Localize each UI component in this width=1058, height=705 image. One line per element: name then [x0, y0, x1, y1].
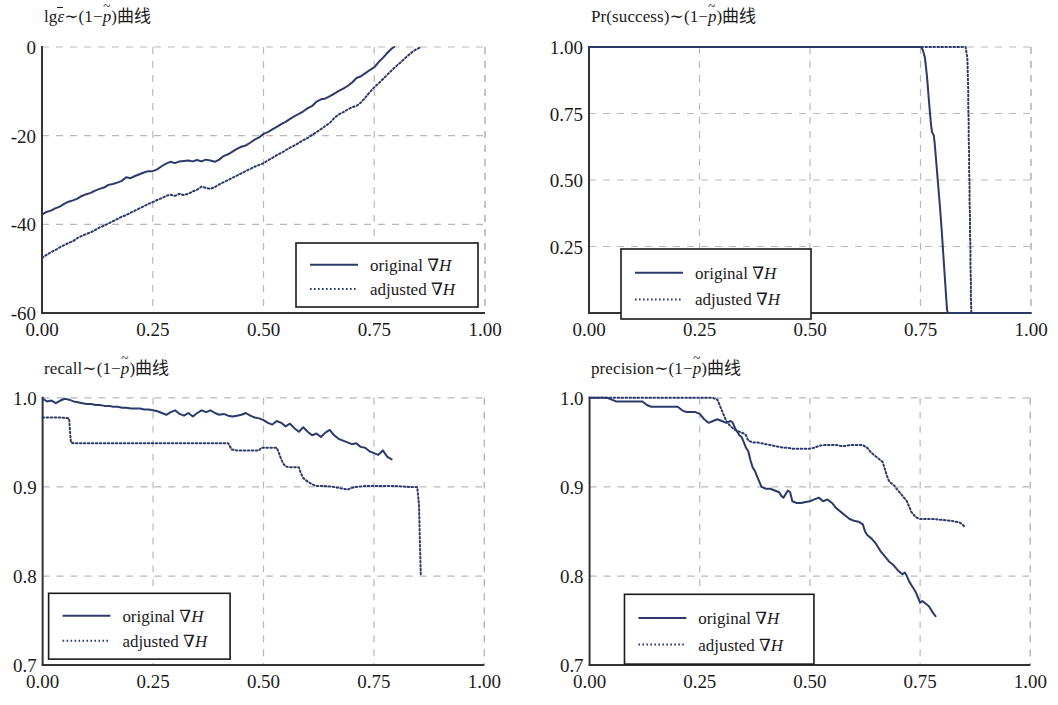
- plot-recall: 0.000.250.500.751.001.00.90.80.7original…: [0, 352, 529, 704]
- series-line-original: [43, 399, 392, 460]
- panel-recall: recall∼(1−p)曲线 0.000.250.500.751.001.00.…: [0, 352, 529, 704]
- y-tick-label: 0.7: [13, 655, 37, 676]
- plot-precision: 0.000.250.500.751.001.00.90.80.7original…: [529, 352, 1058, 704]
- legend-label-adjusted: adjusted ∇H: [370, 279, 457, 299]
- x-tick-label: 0.00: [572, 319, 605, 340]
- x-tick-label: 0.25: [683, 319, 716, 340]
- x-tick-label: 1.00: [468, 319, 501, 340]
- panel-precision: precision∼(1−p)曲线 0.000.250.500.751.001.…: [529, 352, 1058, 704]
- x-tick-label: 0.25: [683, 671, 716, 692]
- y-tick-label: -20: [11, 126, 36, 147]
- panel-lg-epsilon: lgε∼(1−p)曲线 0.000.250.500.751.000-20-40-…: [0, 0, 529, 352]
- y-tick-label: 0.75: [550, 104, 583, 125]
- series-line-original: [590, 398, 936, 616]
- legend-label-original: original ∇H: [698, 608, 780, 628]
- y-tick-label: 0.8: [13, 566, 37, 587]
- x-tick-label: 1.00: [468, 671, 501, 692]
- series-line-adjusted: [590, 398, 966, 528]
- y-tick-label: 1.00: [550, 37, 583, 58]
- plot-pr-success: 0.000.250.500.751.001.000.750.500.25orig…: [529, 0, 1058, 352]
- x-tick-label: 0.50: [793, 319, 826, 340]
- legend: original ∇Hadjusted ∇H: [49, 593, 230, 659]
- y-tick-label: 0.7: [560, 655, 584, 676]
- x-tick-label: 1.00: [1014, 319, 1047, 340]
- x-tick-label: 0.75: [904, 671, 937, 692]
- x-tick-label: 0.75: [904, 319, 937, 340]
- y-tick-label: 0.9: [13, 477, 37, 498]
- y-tick-label: 0.8: [560, 566, 584, 587]
- legend-label-adjusted: adjusted ∇H: [122, 631, 208, 651]
- y-tick-label: -60: [11, 303, 36, 324]
- legend-label-original: original ∇H: [370, 255, 453, 275]
- y-tick-label: 0.9: [560, 477, 584, 498]
- series-line-adjusted: [43, 417, 421, 574]
- legend: original ∇Hadjusted ∇H: [624, 594, 813, 664]
- y-tick-label: 1.0: [13, 388, 37, 409]
- legend: original ∇Hadjusted ∇H: [296, 243, 478, 307]
- legend-label-original: original ∇H: [122, 606, 204, 626]
- y-tick-label: -40: [11, 214, 36, 235]
- x-tick-label: 1.00: [1014, 671, 1047, 692]
- x-tick-label: 0.25: [136, 671, 169, 692]
- legend-label-adjusted: adjusted ∇H: [698, 635, 784, 655]
- x-tick-label: 0.75: [358, 319, 391, 340]
- legend: original ∇Hadjusted ∇H: [621, 249, 811, 319]
- plot-lg-epsilon: 0.000.250.500.751.000-20-40-60original ∇…: [0, 0, 529, 352]
- x-tick-label: 0.75: [357, 671, 390, 692]
- x-tick-label: 0.25: [136, 319, 169, 340]
- x-tick-label: 0.50: [247, 319, 280, 340]
- y-tick-label: 1.0: [560, 388, 584, 409]
- legend-label-original: original ∇H: [695, 263, 778, 283]
- y-tick-label: 0.25: [550, 237, 583, 258]
- panel-pr-success: Pr(success)∼(1−p)曲线 0.000.250.500.751.00…: [529, 0, 1058, 352]
- x-tick-label: 0.50: [247, 671, 280, 692]
- legend-label-adjusted: adjusted ∇H: [695, 289, 782, 309]
- y-tick-label: 0.50: [550, 170, 583, 191]
- figure-four-panel-curves: lgε∼(1−p)曲线 0.000.250.500.751.000-20-40-…: [0, 0, 1058, 705]
- series-line-original: [42, 47, 394, 215]
- x-tick-label: 0.50: [793, 671, 826, 692]
- y-tick-label: 0: [27, 37, 37, 58]
